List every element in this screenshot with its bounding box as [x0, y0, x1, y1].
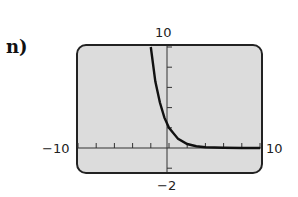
calculator-graph — [0, 0, 298, 197]
ymax-label: 10 — [155, 26, 172, 39]
graph-screen — [77, 45, 262, 173]
xmax-label: 10 — [266, 142, 283, 155]
ymin-label: −2 — [157, 179, 176, 192]
xmin-label: −10 — [42, 142, 69, 155]
